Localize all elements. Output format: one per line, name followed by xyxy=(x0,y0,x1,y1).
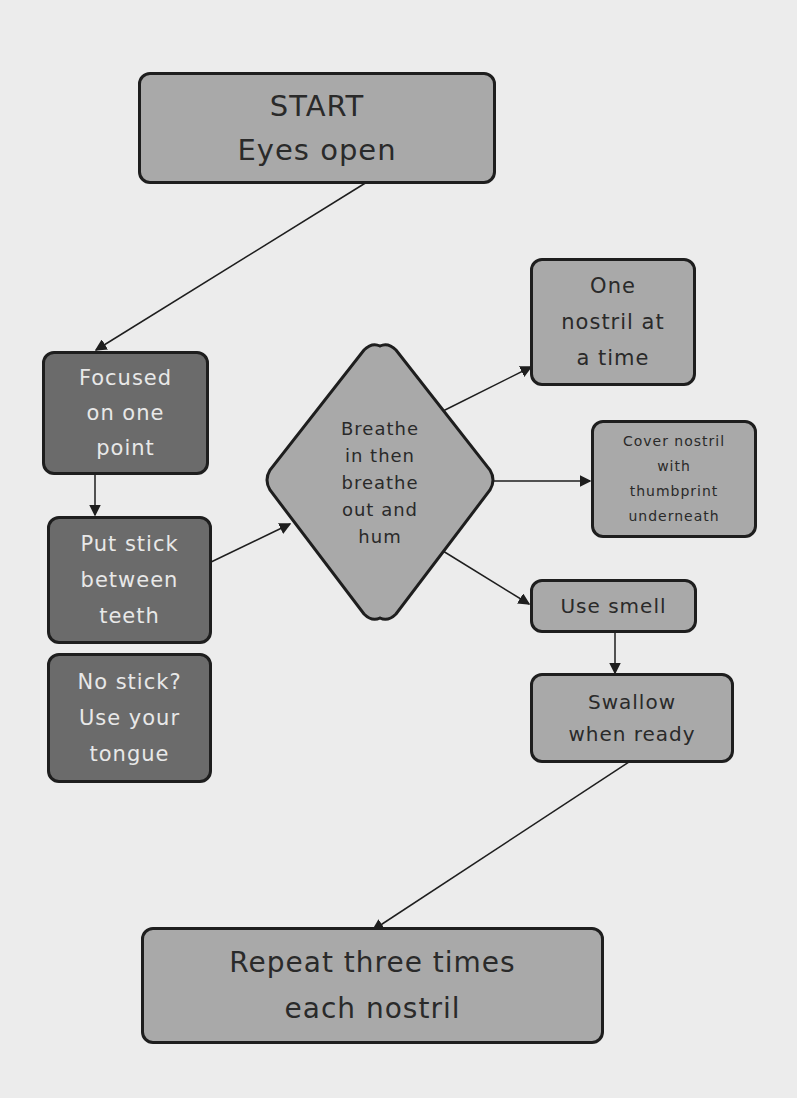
start-node-label: START Eyes open xyxy=(237,84,396,172)
start-node: START Eyes open xyxy=(138,72,496,184)
put-stick-node: Put stick between teeth xyxy=(47,516,212,644)
no-stick-node-label: No stick? Use your tongue xyxy=(77,664,181,772)
swallow-node: Swallow when ready xyxy=(530,673,734,763)
repeat-node: Repeat three times each nostril xyxy=(141,927,604,1044)
put-stick-node-label: Put stick between teeth xyxy=(80,526,178,634)
cover-nostril-node-label: Cover nostril with thumbprint underneath xyxy=(623,429,725,529)
swallow-node-label: Swallow when ready xyxy=(568,686,695,750)
focused-node: Focused on one point xyxy=(42,351,209,475)
use-smell-node-label: Use smell xyxy=(560,591,666,621)
breathe-decision-label: Breathe in then breathe out and hum xyxy=(264,342,496,622)
cover-nostril-node: Cover nostril with thumbprint underneath xyxy=(591,420,757,538)
focused-node-label: Focused on one point xyxy=(79,361,172,466)
breathe-decision-node: Breathe in then breathe out and hum xyxy=(264,342,496,622)
use-smell-node: Use smell xyxy=(530,579,697,633)
no-stick-node: No stick? Use your tongue xyxy=(47,653,212,783)
one-nostril-node-label: One nostril at a time xyxy=(561,268,664,376)
edge-start-focused xyxy=(96,182,367,350)
repeat-node-label: Repeat three times each nostril xyxy=(229,940,515,1032)
edge-swallow-repeat xyxy=(373,760,632,930)
one-nostril-node: One nostril at a time xyxy=(530,258,696,386)
